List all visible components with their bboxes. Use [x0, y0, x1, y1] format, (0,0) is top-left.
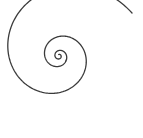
spiral-canvas: [0, 0, 143, 138]
spiral-curve: [8, 0, 132, 93]
spiral-figure: [0, 0, 143, 138]
